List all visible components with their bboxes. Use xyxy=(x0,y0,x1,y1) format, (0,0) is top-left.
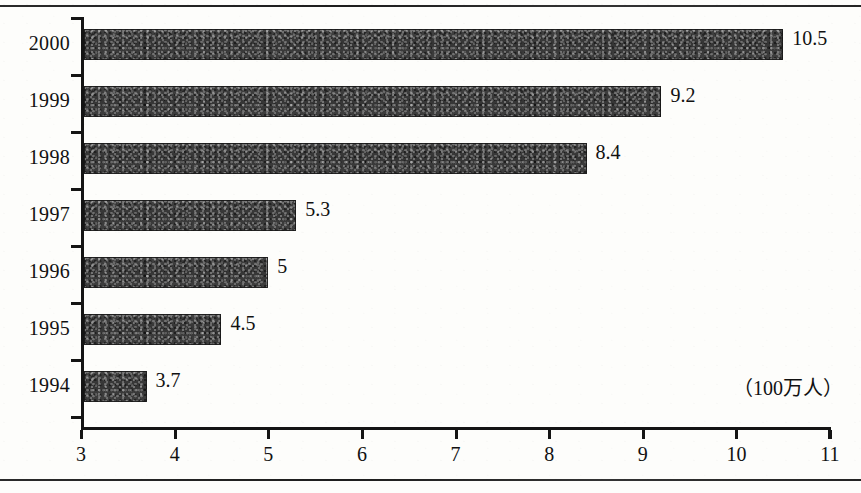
x-axis-tick-label: 11 xyxy=(810,442,850,466)
bar-fill xyxy=(84,86,661,117)
bar-1994 xyxy=(84,371,147,402)
bar-1997 xyxy=(84,200,296,231)
value-label-2000: 10.5 xyxy=(792,26,827,50)
x-axis-tick-label: 5 xyxy=(248,442,288,466)
bar-1996 xyxy=(84,257,268,288)
category-label-1994: 1994 xyxy=(6,373,70,397)
x-axis-tick xyxy=(735,430,738,439)
bar-fill xyxy=(84,143,587,174)
bar-2000 xyxy=(84,29,783,60)
bar-fill xyxy=(84,314,221,345)
category-label-1999: 1999 xyxy=(6,88,70,112)
bar-fill xyxy=(84,29,783,60)
bar-fill xyxy=(84,257,268,288)
bar-1995 xyxy=(84,314,221,345)
value-label-1996: 5 xyxy=(277,254,287,278)
x-axis-tick-label: 9 xyxy=(623,442,663,466)
x-axis-tick-label: 4 xyxy=(155,442,195,466)
x-axis-tick-label: 6 xyxy=(342,442,382,466)
value-label-1997: 5.3 xyxy=(305,197,330,221)
x-axis-tick xyxy=(455,430,458,439)
value-label-1999: 9.2 xyxy=(670,83,695,107)
bar-row: 200010.5 xyxy=(0,17,861,74)
category-label-1998: 1998 xyxy=(6,145,70,169)
value-label-1995: 4.5 xyxy=(230,311,255,335)
category-label-2000: 2000 xyxy=(6,31,70,55)
bar-chart-plot-area: 200010.519999.219988.419975.31996519954.… xyxy=(0,0,861,493)
chart-page: 200010.519999.219988.419975.31996519954.… xyxy=(0,0,861,493)
x-axis-tick xyxy=(642,430,645,439)
category-label-1995: 1995 xyxy=(6,316,70,340)
bar-fill xyxy=(84,200,296,231)
x-axis-tick-label: 3 xyxy=(61,442,101,466)
bar-row: 19999.2 xyxy=(0,74,861,131)
bar-row: 19965 xyxy=(0,245,861,302)
unit-annotation-label: （100万人） xyxy=(733,376,843,400)
x-axis-tick-label: 7 xyxy=(436,442,476,466)
value-label-1998: 8.4 xyxy=(596,140,621,164)
x-axis-tick-label: 10 xyxy=(716,442,756,466)
category-label-1996: 1996 xyxy=(6,259,70,283)
x-axis-tick xyxy=(548,430,551,439)
x-axis-tick xyxy=(80,430,83,439)
bar-fill xyxy=(84,371,147,402)
x-axis-tick xyxy=(361,430,364,439)
bar-row: 19988.4 xyxy=(0,131,861,188)
category-label-1997: 1997 xyxy=(6,202,70,226)
bar-1998 xyxy=(84,143,587,174)
bar-row: 19954.5 xyxy=(0,302,861,359)
value-label-1994: 3.7 xyxy=(156,368,181,392)
y-axis-tick xyxy=(71,416,83,419)
x-axis-tick-label: 8 xyxy=(529,442,569,466)
bar-1999 xyxy=(84,86,661,117)
bar-row: 19975.3 xyxy=(0,188,861,245)
x-axis-tick xyxy=(174,430,177,439)
x-axis-tick xyxy=(267,430,270,439)
bar-row: 19943.7 xyxy=(0,359,861,416)
x-axis-tick xyxy=(829,430,832,439)
